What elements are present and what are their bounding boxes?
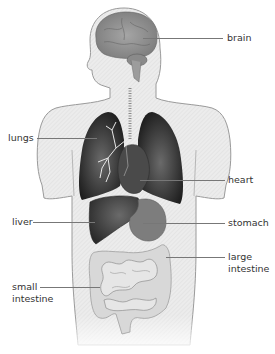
heart-label: heart: [228, 174, 253, 186]
brain-leader-line: [143, 38, 223, 39]
heart-organ: [118, 145, 149, 194]
liver-label: liver: [12, 216, 33, 228]
brain-label: brain: [227, 32, 251, 44]
large-intestine-leader-line: [166, 257, 225, 258]
stomach-leader-line: [143, 223, 225, 224]
lungs-leader-line: [37, 138, 97, 139]
liver-leader-line: [33, 222, 95, 223]
stomach-label: stomach: [228, 217, 269, 229]
heart-leader-line: [140, 180, 225, 181]
lungs-label: lungs: [8, 132, 34, 144]
small-intestine-label: small intestine: [12, 281, 53, 305]
large-intestine-label: large intestine: [228, 251, 269, 275]
